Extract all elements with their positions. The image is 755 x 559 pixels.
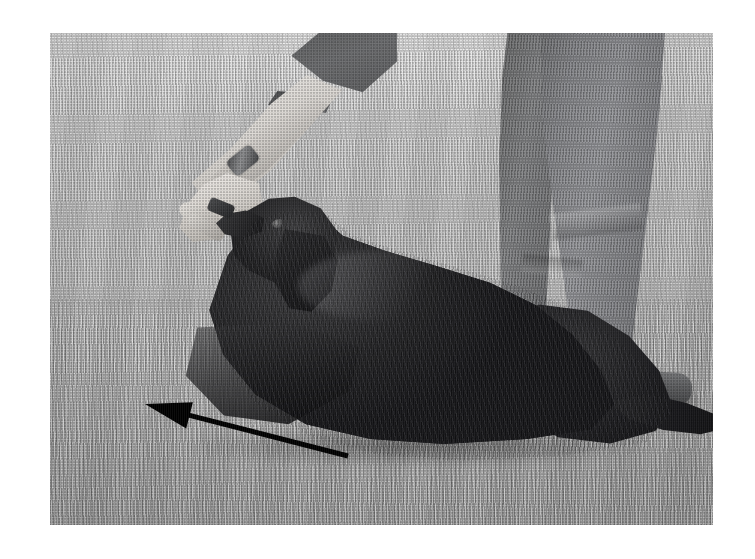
page-root: [0, 0, 755, 559]
arrow-group: [145, 402, 348, 456]
arrow-shaft: [186, 414, 348, 456]
dog-training-photo: [50, 33, 713, 525]
arrow-head: [145, 402, 193, 428]
direction-arrow: [50, 33, 713, 525]
